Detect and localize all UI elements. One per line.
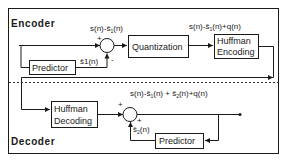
encoder-label: Encoder [11, 18, 55, 29]
encoder-predictor-label: Predictor [32, 63, 68, 73]
huffman-encoding-line2: Encoding [217, 47, 255, 57]
output-to-dec-predictor [205, 115, 219, 141]
decoder-label: Decoder [11, 136, 55, 147]
channel-arrow-icon [268, 75, 273, 80]
enc-prediction-signal: ŝ1(n) [80, 57, 99, 66]
dec-summer-plus-top: + [118, 100, 123, 109]
dpcm-block-diagram: Encoder Decoder + - Predictor ŝ1(n) s(n)… [0, 0, 287, 162]
quantized-signal: s(n)-ŝ1(n)+q(n) [189, 22, 241, 32]
decoder-predictor-label: Predictor [159, 136, 195, 146]
quantization-label: Quantization [132, 42, 183, 52]
dec-summer-plus-side: + [137, 116, 142, 125]
decoder-output-signal: s(n)-ŝ1(n) + ŝ2(n)+q(n) [130, 89, 208, 99]
huffman-decoding-line1: Huffman [54, 104, 88, 114]
enc-input-to-predictor [21, 46, 29, 68]
enc-summer-minus: - [111, 55, 114, 64]
huffman-encoding-line1: Huffman [217, 36, 251, 46]
dec-prediction-signal: ŝ2(n) [133, 125, 150, 135]
enc-error-signal: s(n)-ŝ1(n) [90, 24, 123, 34]
enc-summer-plus: + [97, 34, 102, 43]
huffman-decoding-line2: Decoding [54, 116, 92, 126]
decoder-summer [123, 108, 137, 122]
encoder-summer [100, 39, 114, 53]
decoder-output-terminal [239, 113, 242, 116]
